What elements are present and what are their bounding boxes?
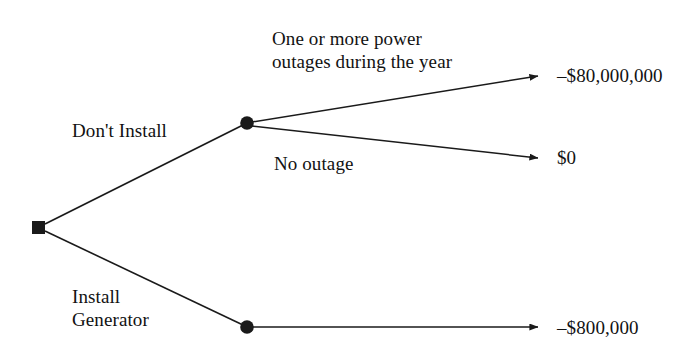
branch-label-outage-yes: One or more poweroutages during the year	[272, 27, 452, 73]
decision-tree-diagram: One or more poweroutages during the year…	[0, 0, 699, 358]
branch-label-outage-yes-line1: One or more power	[272, 28, 422, 49]
branch-outage-yes	[252, 76, 538, 122]
branch-label-outage-no: No outage	[274, 152, 354, 175]
payoff-install-generator: –$800,000	[557, 316, 639, 339]
branch-label-install-generator-line2: Generator	[72, 309, 149, 330]
branch-label-install-generator-line1: Install	[72, 286, 120, 307]
payoff-outage-no: $0	[557, 146, 576, 169]
branch-label-install-generator: InstallGenerator	[72, 285, 149, 331]
branch-label-outage-yes-line2: outages during the year	[272, 51, 452, 72]
decision-node[interactable]	[32, 221, 45, 234]
payoff-outage-yes: –$80,000,000	[557, 64, 663, 87]
chance-node-top[interactable]	[240, 116, 254, 130]
chance-node-bottom[interactable]	[240, 320, 254, 334]
branch-label-dont-install: Don't Install	[72, 119, 167, 142]
